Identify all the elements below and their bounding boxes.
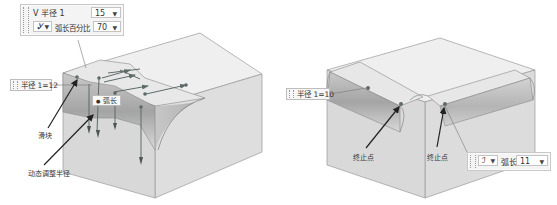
radius-tag-left[interactable]: 半径 1=12 [10,79,52,91]
chevron-down-icon: ▼ [44,22,49,32]
v-radius-value: 15 [95,9,105,18]
callout-slider: 滑块 [38,130,52,140]
arc-percent-label: 弧长百分比 [55,22,90,33]
arc-mode-button[interactable]: Ꮍ ▼ [33,21,52,32]
end-point-left[interactable] [399,102,403,106]
chevron-down-icon: ▼ [490,156,495,166]
arc-mode-icon: Ꮍ [37,22,43,31]
arc-dot-icon: ● [96,98,100,104]
arc-length-label: 弧长 [501,156,517,167]
toolbar-grip[interactable] [23,7,29,33]
radius-point[interactable] [366,86,370,90]
arc-length-toolbar: ℐ ▼ 弧长 11 ▼ [467,152,551,171]
variable-radius-toolbar: V 半径 1 15 ▼ Ꮍ ▼ 弧长百分比 70 ▼ [20,4,124,36]
radius-tag-text: 半径 1=10 [297,90,334,99]
chevron-down-icon: ▼ [112,22,117,33]
end-point-right[interactable] [443,102,447,106]
arc-tag-text: 弧长 [103,97,117,105]
v-radius-label: V 半径 1 [33,7,65,18]
arc-length-value: 11 [520,157,530,166]
chevron-down-icon: ▼ [539,156,544,167]
arc-percent-dropdown[interactable]: 70 ▼ [93,21,121,32]
arc-percent-value: 70 [97,23,107,32]
arc-length-tag[interactable]: ● 弧长 [92,95,121,106]
tag-grip [13,81,18,89]
arc-length-dropdown[interactable]: 11 ▼ [516,155,548,166]
toolbar-grip[interactable] [470,155,476,168]
arc-mode-button[interactable]: ℐ ▼ [478,155,498,166]
v-radius-dropdown[interactable]: 15 ▼ [91,7,121,18]
right-block [327,38,535,198]
callout-end-point-right: 终止点 [427,152,448,162]
radius-tag-right[interactable]: 半径 1=10 [286,88,330,100]
callout-end-point-left: 终止点 [353,152,374,162]
arc-mode-icon: ℐ [482,156,486,165]
left-block [44,33,262,198]
radius-tag-text: 半径 1=12 [21,81,58,90]
callout-dynamic-radius: 动态调整半径 [28,168,70,178]
tag-grip [289,90,294,98]
chevron-down-icon: ▼ [112,8,117,19]
